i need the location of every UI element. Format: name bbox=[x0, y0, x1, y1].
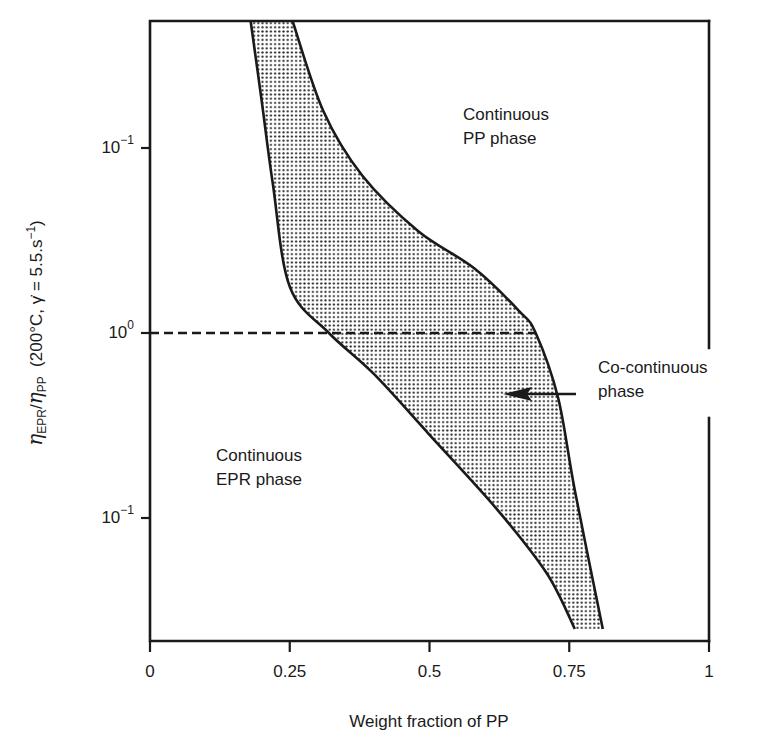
label-line: phase bbox=[598, 380, 708, 404]
label-continuous-epr-phase: Continuous EPR phase bbox=[216, 444, 302, 492]
x-tick-label: 0.25 bbox=[273, 662, 306, 682]
x-tick-label: 0.5 bbox=[418, 662, 442, 682]
y-label-conditions: (200°C, bbox=[27, 304, 46, 376]
x-tick-label: 0.75 bbox=[553, 662, 586, 682]
x-tick-label: 1 bbox=[704, 662, 713, 682]
y-label-sub: EPR bbox=[35, 409, 49, 434]
y-tick-label: 10−1 bbox=[74, 135, 134, 158]
y-axis-label: ηEPR/ηPP (200°C, γ̇ = 5.5.s−1) bbox=[23, 220, 49, 446]
gamma-dot-symbol: γ̇ bbox=[27, 296, 46, 305]
co-continuous-region bbox=[251, 21, 603, 629]
y-tick-label: 100 bbox=[74, 320, 134, 343]
label-line: Continuous bbox=[216, 444, 302, 468]
eta-symbol: η bbox=[23, 434, 47, 446]
label-line: EPR phase bbox=[216, 468, 302, 492]
y-label-conditions: ) bbox=[27, 220, 46, 226]
y-tick-label: 10−1 bbox=[74, 505, 134, 528]
label-line: PP phase bbox=[463, 127, 549, 151]
x-tick-label: 0 bbox=[145, 662, 154, 682]
x-axis-label: Weight fraction of PP bbox=[349, 712, 508, 732]
y-label-conditions: = 5.5.s bbox=[27, 240, 46, 296]
y-label-sub: PP bbox=[35, 376, 49, 392]
y-label-slash: / bbox=[27, 404, 46, 409]
label-co-continuous-phase: Co-continuous phase bbox=[598, 356, 708, 404]
label-continuous-pp-phase: Continuous PP phase bbox=[463, 103, 549, 151]
y-label-exponent: −1 bbox=[24, 226, 38, 240]
eta-symbol: η bbox=[23, 392, 47, 404]
label-line: Co-continuous bbox=[598, 356, 708, 380]
label-line: Continuous bbox=[463, 103, 549, 127]
